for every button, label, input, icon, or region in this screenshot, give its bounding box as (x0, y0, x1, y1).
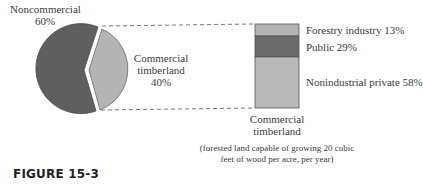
bar-segment-public (255, 36, 299, 57)
bar-label-public: Public 29% (306, 41, 357, 53)
bar-label-forestry-industry: Forestry industry 13% (306, 24, 404, 36)
commercial-label-line1: Commercial (130, 52, 192, 64)
bar-label-nonindustrial-private: Nonindustrial private 58% (306, 76, 423, 88)
pie-label-commercial-timberland: Commercial timberland 40% (130, 52, 192, 88)
commercial-label-line2: timberland (130, 64, 192, 76)
connector-top (102, 24, 255, 26)
bar-caption-line2: timberland (237, 125, 317, 137)
bar-note: (forested land capable of growing 20 cub… (196, 143, 358, 165)
bar-caption-line1: Commercial (237, 113, 317, 125)
noncommercial-value-text: 60% (10, 15, 80, 27)
noncommercial-label-text: Noncommercial (10, 3, 80, 15)
bar-segment-forestry-industry (255, 24, 299, 36)
pie-slice-noncommercial (36, 24, 98, 114)
connector-bottom (101, 108, 255, 110)
bar-note-line1: (forested land capable of growing 20 cub… (196, 143, 358, 154)
bar-caption: Commercial timberland (237, 113, 317, 137)
pie-label-noncommercial: Noncommercial 60% (10, 3, 80, 27)
commercial-value-text: 40% (130, 76, 192, 88)
figure-label: FIGURE 15-3 (13, 167, 99, 181)
pie-slice-commercial-timberland (89, 29, 128, 110)
bar-note-line2: feet of wood per acre, per year) (196, 154, 358, 165)
bar-segment-nonindustrial-private (255, 57, 299, 108)
